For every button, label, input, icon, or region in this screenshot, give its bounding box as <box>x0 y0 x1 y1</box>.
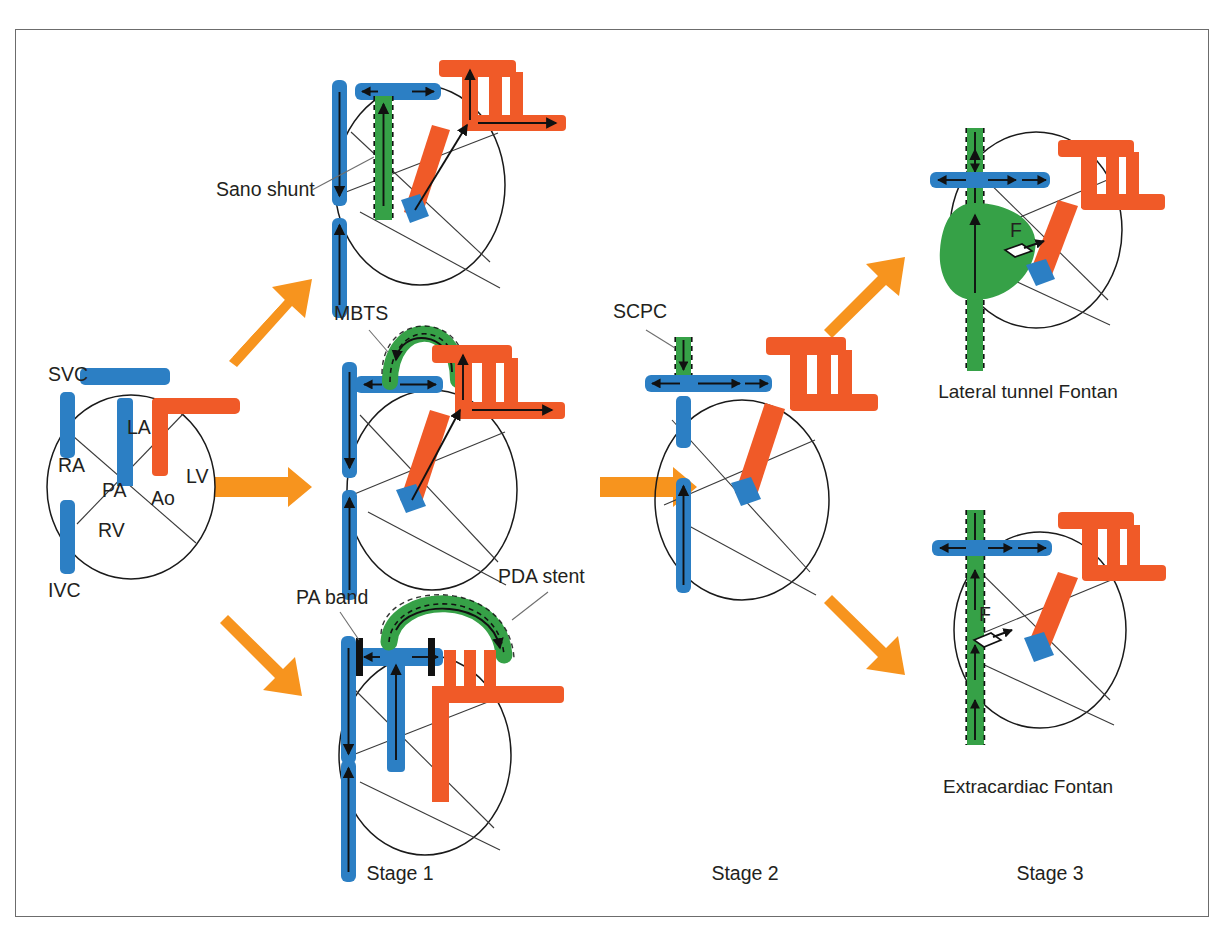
pda-stent-leader <box>512 592 548 620</box>
arrow-native-to-pa-band <box>220 615 302 696</box>
label-pa: PA <box>102 479 127 501</box>
ascending-aorta <box>432 686 449 802</box>
head-vessel-1 <box>1106 152 1119 200</box>
lateral-tunnel-fontan-caption: Lateral tunnel Fontan <box>938 381 1118 402</box>
extracardiac-fontan-caption: Extracardiac Fontan <box>943 776 1113 797</box>
septum-line-3 <box>360 782 500 850</box>
pathway-arrows <box>215 257 905 696</box>
head-vessel-1 <box>817 350 831 400</box>
head-vessel-1 <box>444 650 456 692</box>
head-vessel-2 <box>504 358 518 408</box>
panel-extracardiac-fontan: F Extracardiac Fontan <box>932 510 1166 797</box>
aorta <box>1026 140 1165 286</box>
descending-aorta <box>1081 194 1165 210</box>
label-rv: RV <box>98 519 125 541</box>
fenestration-flow-arrow <box>993 630 1012 637</box>
stage-label-1: Stage 1 <box>366 862 433 884</box>
scpc-anastomosis <box>675 337 692 375</box>
figure-canvas: SVC IVC RA RV LA LV PA Ao <box>0 0 1217 944</box>
head-vessel-2 <box>838 350 852 400</box>
label-ra: RA <box>58 454 85 476</box>
stage-labels: Stage 1 Stage 2 Stage 3 <box>366 862 1083 884</box>
head-vessel-1 <box>489 72 502 120</box>
descending-aorta <box>432 686 564 703</box>
pa-band-label: PA band <box>296 586 368 608</box>
fenestration-label-ec: F <box>979 603 991 625</box>
label-ivc: IVC <box>48 579 81 601</box>
septum-line-3 <box>678 520 816 595</box>
aorta <box>396 345 565 513</box>
label-ao: Ao <box>151 487 175 509</box>
pa-branches <box>80 368 170 385</box>
ivc-vessel <box>60 500 75 574</box>
panel-sano-shunt: Sano shunt <box>216 60 566 318</box>
septum-line-1 <box>351 686 494 828</box>
head-vessel-1 <box>482 358 496 408</box>
septum-line-2 <box>345 698 498 758</box>
label-lv: LV <box>186 465 208 487</box>
label-la: LA <box>127 416 151 438</box>
arrow-native-to-mbts <box>215 467 312 507</box>
sano-conduit <box>374 96 393 220</box>
aorta <box>731 337 878 506</box>
aorta-arch <box>152 398 240 414</box>
descending-aorta <box>1082 565 1166 581</box>
head-vessel-2 <box>510 72 523 120</box>
svc-stump <box>676 396 691 448</box>
diagram-svg: SVC IVC RA RV LA LV PA Ao <box>0 0 1217 944</box>
arrow-scpc-to-extracardiac <box>824 595 905 675</box>
arrow-scpc-to-lateral-tunnel <box>824 257 905 338</box>
fenestration-label-lt: F <box>1010 219 1022 241</box>
septum-line-3 <box>360 212 500 288</box>
panel-native-heart: SVC IVC RA RV LA LV PA Ao <box>47 363 240 601</box>
descending-aorta <box>790 394 878 411</box>
mbts-leader <box>369 330 388 352</box>
pa-band-leader <box>340 612 359 640</box>
mbts-label: MBTS <box>334 302 388 324</box>
pa-band-left <box>356 638 363 676</box>
sano-shunt-label: Sano shunt <box>216 178 315 200</box>
head-vessel-2 <box>464 650 476 692</box>
stage-label-3: Stage 3 <box>1016 862 1083 884</box>
hypoplastic-aorta <box>432 650 564 802</box>
panel-lateral-tunnel-fontan: F Lateral tunnel Fontan <box>930 128 1165 402</box>
panel-scpc: SCPC <box>613 300 878 600</box>
head-vessel-3 <box>484 650 496 692</box>
pa-band-right <box>428 638 435 676</box>
stage-label-2: Stage 2 <box>711 862 778 884</box>
panel-mbts: MBTS <box>334 302 565 600</box>
scpc-label: SCPC <box>613 300 667 322</box>
label-svc: SVC <box>48 363 88 385</box>
arrow-native-to-sano <box>229 279 312 367</box>
head-vessel-2 <box>1126 152 1139 200</box>
pda-stent-label: PDA stent <box>498 565 585 587</box>
svc-vessel <box>60 392 75 458</box>
panel-pa-band-pda-stent: PA band PDA stent <box>296 565 585 882</box>
scpc-leader <box>646 330 675 348</box>
